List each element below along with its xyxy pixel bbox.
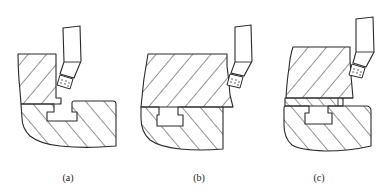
base-workpiece-c — [284, 106, 371, 151]
cutting-tool-c — [349, 17, 374, 78]
machining-diagram — [0, 0, 386, 194]
panel-label-a: (a) — [62, 172, 73, 183]
upper-block-a — [18, 54, 61, 104]
panel-label-c: (c) — [313, 172, 324, 183]
panel-c — [284, 17, 374, 151]
base-workpiece-a — [21, 101, 116, 147]
panel-a — [18, 26, 116, 147]
upper-block-c — [286, 47, 353, 98]
base-workpiece-b — [141, 107, 223, 150]
panel-b — [141, 25, 252, 150]
upper-block-b — [141, 54, 233, 107]
cutting-tool-a — [57, 26, 81, 89]
panel-label-b: (b) — [193, 172, 205, 183]
cutting-tool-b — [227, 25, 252, 88]
tool-insert-b — [227, 74, 243, 88]
intermediate-layer-c — [285, 98, 343, 106]
